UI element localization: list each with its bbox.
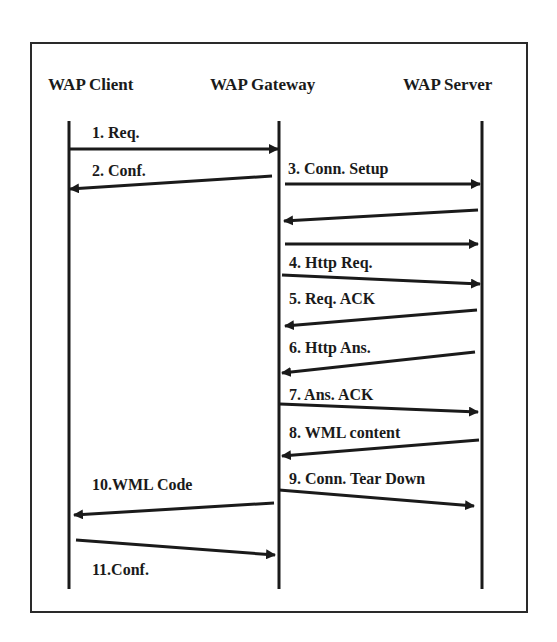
message-1: 1. Req.	[69, 124, 278, 149]
message-arrow	[76, 540, 275, 555]
message-arrow	[284, 210, 478, 221]
message-label: 7. Ans. ACK	[289, 386, 374, 403]
message-label: 6. Http Ans.	[289, 339, 371, 357]
message-7: 7. Ans. ACK	[280, 386, 478, 412]
message-2: 2. Conf.	[70, 162, 272, 189]
message-label: 9. Conn. Tear Down	[289, 470, 425, 487]
message-arrow	[279, 490, 474, 506]
message-10: 10.WML Code	[74, 476, 274, 515]
message-arrow	[280, 404, 478, 412]
participant-label: WAP Client	[48, 75, 134, 94]
message-11: 11.Conf.	[76, 540, 275, 578]
figure-caption-cropped	[0, 634, 557, 642]
message-arrow	[285, 310, 477, 326]
participant-gateway: WAP Gateway	[210, 75, 316, 589]
message-unlabeled-3	[284, 210, 478, 221]
message-5: 5. Req. ACK	[285, 290, 477, 326]
message-arrow	[282, 440, 479, 456]
message-8: 8. WML content	[282, 424, 479, 456]
message-9: 9. Conn. Tear Down	[279, 470, 474, 506]
message-label: 3. Conn. Setup	[288, 160, 389, 178]
message-4: 4. Http Req.	[282, 254, 480, 284]
message-label: 10.WML Code	[92, 476, 192, 493]
message-label: 2. Conf.	[92, 162, 146, 179]
participant-server: WAP Server	[403, 75, 493, 589]
message-arrow	[74, 503, 274, 515]
participant-label: WAP Server	[403, 75, 493, 94]
message-label: 5. Req. ACK	[289, 290, 376, 308]
participant-label: WAP Gateway	[210, 75, 316, 94]
messages: 1. Req.2. Conf.3. Conn. Setup4. Http Req…	[69, 124, 480, 578]
message-label: 4. Http Req.	[289, 254, 373, 272]
message-label: 1. Req.	[92, 124, 140, 142]
message-3: 3. Conn. Setup	[285, 160, 480, 184]
message-6: 6. Http Ans.	[282, 339, 475, 373]
message-arrow	[282, 275, 480, 284]
message-label: 8. WML content	[289, 424, 401, 441]
message-label: 11.Conf.	[92, 561, 149, 578]
sequence-diagram: WAP ClientWAP GatewayWAP Server 1. Req.2…	[0, 0, 557, 642]
